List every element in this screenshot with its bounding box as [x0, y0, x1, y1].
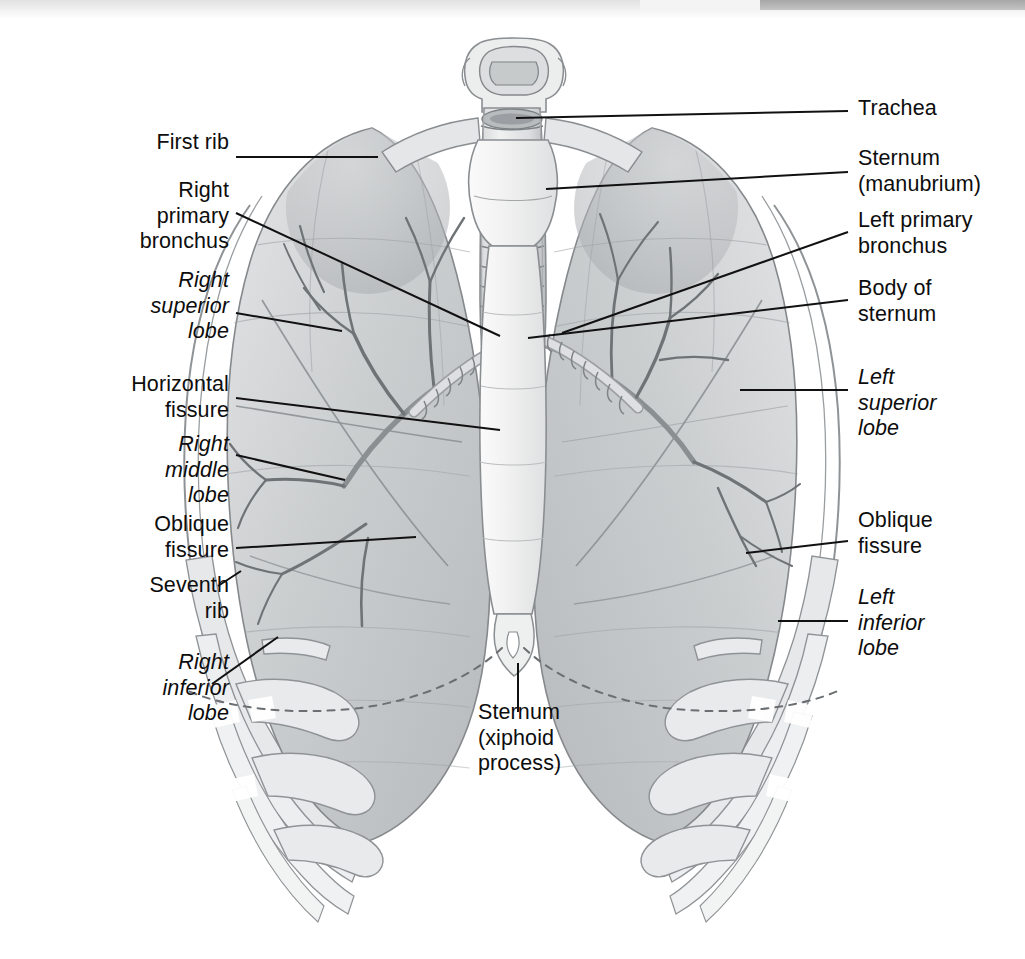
- sternum-body: [480, 246, 546, 614]
- larynx: [462, 38, 565, 112]
- leader-trachea: [516, 111, 848, 118]
- figure-page: First rib Right primary bronchus Right s…: [0, 0, 1025, 959]
- label-oblique-fissure-right: Oblique fissure: [60, 512, 229, 563]
- label-right-inferior-lobe: Right inferior lobe: [60, 650, 229, 727]
- label-right-superior-lobe: Right superior lobe: [60, 268, 229, 345]
- label-trachea: Trachea: [858, 96, 1025, 122]
- label-left-superior-lobe: Left superior lobe: [858, 365, 1025, 442]
- label-sternum-xiphoid-process: Sternum (xiphoid process): [478, 700, 638, 777]
- label-body-of-sternum: Body of sternum: [858, 276, 1025, 327]
- label-right-primary-bronchus: Right primary bronchus: [60, 178, 229, 255]
- label-left-inferior-lobe: Left inferior lobe: [858, 585, 1025, 662]
- label-horizontal-fissure: Horizontal fissure: [52, 372, 229, 423]
- label-oblique-fissure-left: Oblique fissure: [858, 508, 1025, 559]
- label-seventh-rib: Seventh rib: [60, 573, 229, 624]
- label-right-middle-lobe: Right middle lobe: [60, 432, 229, 509]
- label-first-rib: First rib: [84, 130, 229, 156]
- label-sternum-manubrium: Sternum (manubrium): [858, 146, 1025, 197]
- xiphoid-process: [494, 614, 534, 676]
- label-left-primary-bronchus: Left primary bronchus: [858, 208, 1025, 259]
- manubrium: [469, 140, 558, 246]
